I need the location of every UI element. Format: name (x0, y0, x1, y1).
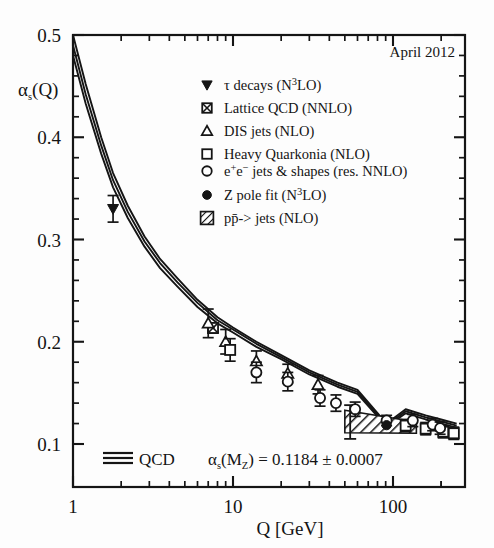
qcd-annotation: QCD αs(MZ) = 0.1184 ± 0.0007 (103, 450, 383, 471)
y-tick-label: 0.4 (37, 127, 61, 148)
legend-label: Heavy Quarkonia (NLO) (224, 146, 370, 163)
legend-label: DIS jets (NLO) (224, 123, 314, 140)
marker-hatched-square (201, 212, 214, 225)
qcd-band (73, 35, 457, 428)
marker-filled-circle (382, 421, 391, 430)
x-tick-label: 10 (224, 496, 243, 517)
marker-filled-circle (203, 191, 212, 200)
marker-open-circle (202, 166, 212, 176)
qcd-curve-upper (73, 35, 457, 424)
x-axis-title: Q [GeV] (256, 518, 323, 539)
x-tick-label: 1 (68, 496, 78, 517)
y-axis-title: αs(Q) (18, 79, 58, 102)
y-tick-label: 0.2 (37, 332, 61, 353)
marker-open-circle (331, 398, 341, 408)
marker-open-triangle (202, 126, 213, 135)
data-points (108, 196, 460, 440)
y-tick-label: 0.1 (37, 434, 61, 455)
marker-crossed-square (202, 103, 212, 113)
y-tick-label: 0.5 (37, 25, 61, 46)
date-label: April 2012 (390, 44, 455, 60)
marker-filled-down-triangle (108, 204, 119, 214)
x-tick-label: 100 (379, 496, 408, 517)
legend-label: Lattice QCD (NNLO) (224, 100, 352, 117)
marker-open-square (202, 149, 212, 159)
legend-label: τ decays (N3LO) (224, 76, 321, 94)
chart-canvas: 0.10.20.30.40.5 110100 αs(Q) Q [GeV] Apr… (0, 0, 494, 548)
marker-open-square (225, 345, 235, 355)
marker-open-square (449, 428, 459, 438)
legend: τ decays (N3LO)Lattice QCD (NNLO)DIS jet… (201, 76, 408, 227)
legend-label: pp̄-> jets (NLO) (224, 210, 319, 227)
legend-label: e+e− jets & shapes (res. NNLO) (224, 162, 408, 180)
marker-open-circle (283, 377, 293, 387)
legend-label: Z pole fit (N3LO) (224, 186, 326, 204)
y-axis-ticks (73, 35, 465, 444)
qcd-triple-line-icon (103, 453, 133, 463)
alpha-s-mz-value: αs(MZ) = 0.1184 ± 0.0007 (208, 450, 383, 471)
alpha-s-running-coupling-figure: 0.10.20.30.40.5 110100 αs(Q) Q [GeV] Apr… (0, 0, 494, 548)
marker-open-circle (435, 423, 445, 433)
marker-open-circle (251, 367, 261, 377)
x-axis-tick-labels: 110100 (68, 496, 407, 517)
marker-open-circle (350, 404, 360, 414)
marker-filled-down-triangle (202, 81, 212, 90)
marker-open-circle (408, 415, 418, 425)
marker-open-circle (315, 393, 325, 403)
qcd-label: QCD (139, 450, 175, 469)
y-tick-label: 0.3 (37, 230, 61, 251)
